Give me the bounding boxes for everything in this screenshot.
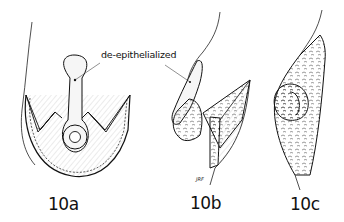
de-epithelialized-callout-label: de-epithelialized (101, 49, 176, 60)
panel-label-10c: 10c (290, 194, 319, 214)
panel-10a-drawing (21, 22, 130, 177)
surgical-diagram (0, 0, 344, 222)
artist-signature: JRF (196, 176, 204, 182)
panel-label-10b: 10b (190, 193, 221, 213)
panel-10c-drawing (274, 10, 325, 190)
panel-10b-drawing (165, 12, 250, 185)
panel-label-10a: 10a (48, 194, 79, 214)
